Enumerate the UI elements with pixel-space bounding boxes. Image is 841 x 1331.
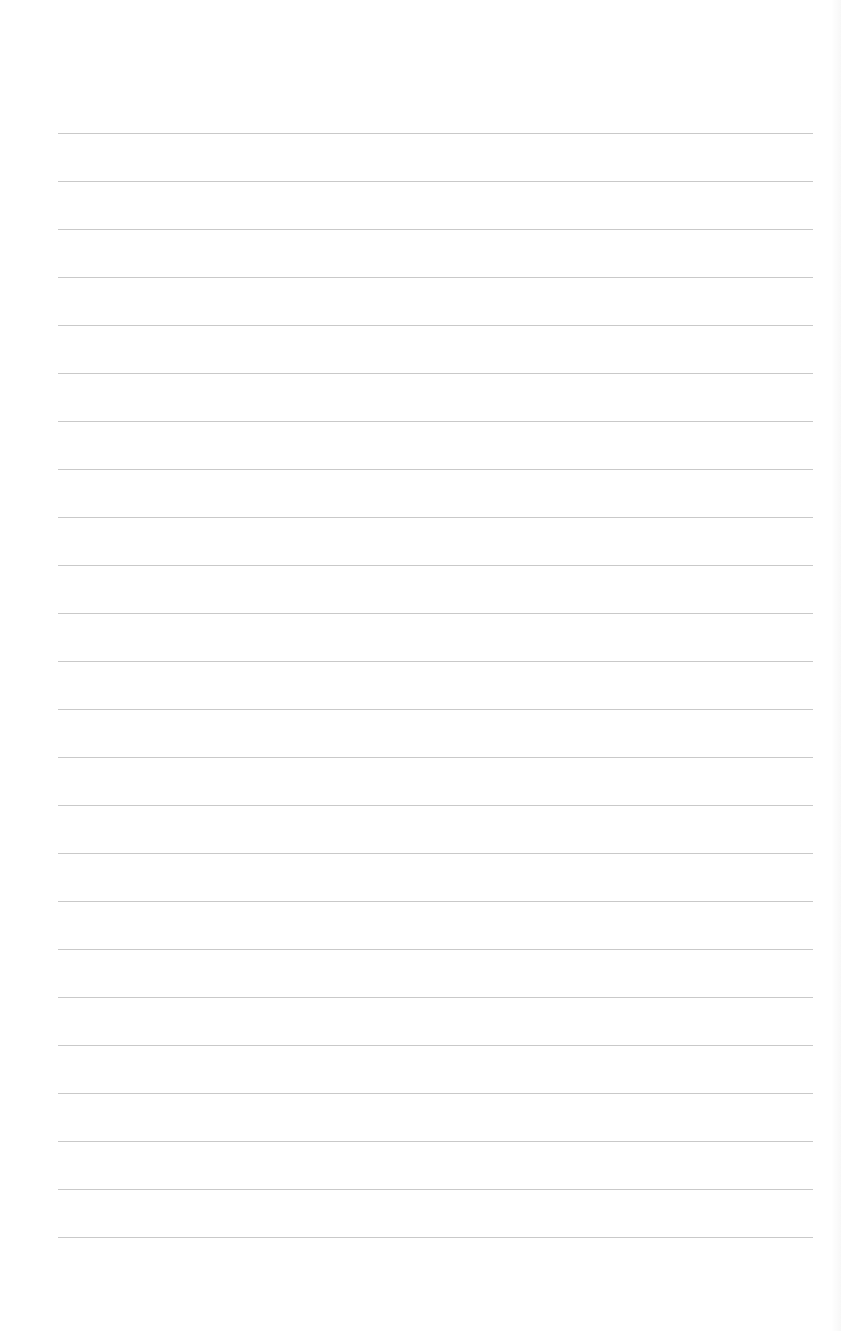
ruled-line — [58, 853, 813, 854]
ruled-line — [58, 901, 813, 902]
ruled-line — [58, 1189, 813, 1190]
lined-paper-page — [0, 0, 841, 1331]
page-edge-shadow — [831, 0, 841, 1331]
ruled-line — [58, 709, 813, 710]
ruled-line — [58, 421, 813, 422]
ruled-line — [58, 469, 813, 470]
ruled-line — [58, 757, 813, 758]
ruled-line — [58, 1093, 813, 1094]
ruled-line — [58, 661, 813, 662]
ruled-line — [58, 325, 813, 326]
ruled-line — [58, 997, 813, 998]
ruled-line — [58, 1045, 813, 1046]
ruled-line — [58, 565, 813, 566]
ruled-line — [58, 517, 813, 518]
ruled-line — [58, 133, 813, 134]
ruled-line — [58, 229, 813, 230]
ruled-line — [58, 1237, 813, 1238]
ruled-line — [58, 373, 813, 374]
ruled-line — [58, 613, 813, 614]
ruled-line — [58, 277, 813, 278]
ruled-line — [58, 1141, 813, 1142]
ruled-line — [58, 181, 813, 182]
ruled-line — [58, 805, 813, 806]
ruled-line — [58, 949, 813, 950]
